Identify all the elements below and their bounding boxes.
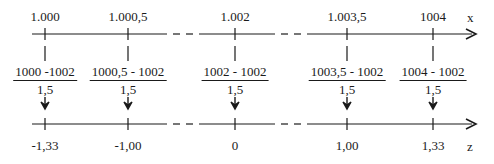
fraction: 1003,5 - 1002 1,5 bbox=[309, 65, 386, 96]
fraction: 1000 -1002 1,5 bbox=[13, 65, 77, 96]
z-axis-name: z bbox=[467, 140, 473, 153]
fraction-denominator: 1,5 bbox=[309, 81, 386, 96]
x-tick-label: 1.002 bbox=[220, 10, 249, 23]
fraction-numerator: 1000,5 - 1002 bbox=[90, 65, 167, 81]
fraction-denominator: 1,5 bbox=[90, 81, 167, 96]
connector-lines bbox=[45, 46, 433, 61]
z-tick-label: -1,33 bbox=[31, 139, 58, 152]
fraction-denominator: 1,5 bbox=[13, 81, 77, 96]
fraction-denominator: 1,5 bbox=[202, 81, 269, 96]
z-tick-label: -1,00 bbox=[114, 139, 141, 152]
fraction: 1002 - 1002 1,5 bbox=[202, 65, 269, 96]
x-tick-label: 1004 bbox=[420, 10, 446, 23]
fraction: 1000,5 - 1002 1,5 bbox=[90, 65, 167, 96]
z-tick-label: 1,00 bbox=[336, 139, 359, 152]
fraction: 1004 - 1002 1,5 bbox=[400, 65, 467, 96]
fraction-numerator: 1004 - 1002 bbox=[400, 65, 467, 81]
fraction-numerator: 1002 - 1002 bbox=[202, 65, 269, 81]
down-arrow-icons bbox=[41, 97, 437, 109]
x-tick-label: 1.003,5 bbox=[328, 10, 367, 23]
z-tick-label: 0 bbox=[232, 139, 239, 152]
fraction-numerator: 1000 -1002 bbox=[13, 65, 77, 81]
x-tick-label: 1.000 bbox=[30, 10, 59, 23]
fraction-denominator: 1,5 bbox=[400, 81, 467, 96]
x-axis-name: x bbox=[467, 11, 474, 24]
x-tick-label: 1.000,5 bbox=[109, 10, 148, 23]
z-tick-label: 1,33 bbox=[422, 139, 445, 152]
fraction-numerator: 1003,5 - 1002 bbox=[309, 65, 386, 81]
